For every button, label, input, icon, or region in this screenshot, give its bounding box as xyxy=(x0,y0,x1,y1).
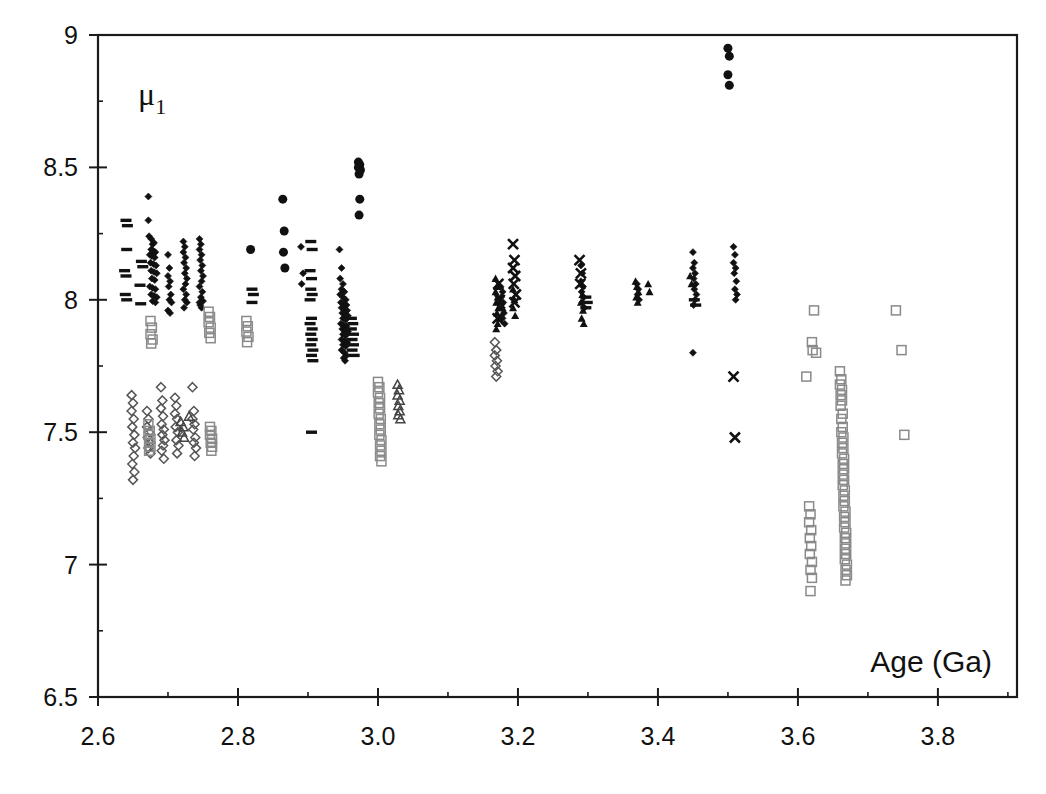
y-tick-label: 7.5 xyxy=(43,418,78,446)
data-point-filled-circle xyxy=(355,195,364,204)
data-point-filled-diamond xyxy=(689,249,696,256)
data-point-open-diamond xyxy=(170,393,179,402)
x-tick-label: 3.6 xyxy=(781,722,816,750)
data-point-cross-x xyxy=(730,432,740,442)
y-axis-label-subscript: 1 xyxy=(155,94,166,119)
data-point-open-diamond xyxy=(142,407,151,416)
data-point-filled-diamond xyxy=(338,265,345,272)
data-point-open-diamond xyxy=(159,454,168,463)
data-point-open-square xyxy=(897,346,906,355)
data-point-open-diamond xyxy=(173,449,182,458)
y-axis-label: μ1 xyxy=(138,76,166,119)
data-point-filled-diamond xyxy=(164,251,171,258)
x-tick-label: 3.4 xyxy=(641,722,676,750)
data-point-open-diamond xyxy=(188,383,197,392)
data-point-open-square xyxy=(900,430,909,439)
data-point-filled-circle xyxy=(725,81,734,90)
data-point-filled-circle xyxy=(355,211,364,220)
x-tick-label: 3.0 xyxy=(361,722,396,750)
data-point-open-square xyxy=(891,306,900,315)
y-tick-label: 8 xyxy=(64,286,78,314)
data-point-filled-triangle xyxy=(644,280,652,287)
data-point-filled-circle xyxy=(279,248,288,257)
data-point-filled-triangle xyxy=(511,312,519,319)
y-tick-label: 9 xyxy=(64,21,78,49)
data-point-filled-circle xyxy=(723,44,732,53)
data-point-open-diamond xyxy=(128,459,137,468)
data-point-filled-diamond xyxy=(166,265,173,272)
data-point-filled-circle xyxy=(246,245,255,254)
data-point-open-diamond xyxy=(130,430,139,439)
x-axis-label: Age (Ga) xyxy=(870,645,992,678)
data-point-filled-diamond xyxy=(145,193,152,200)
data-point-open-diamond xyxy=(490,338,499,347)
data-point-cross-x xyxy=(729,372,739,382)
data-point-filled-circle xyxy=(725,52,734,61)
data-point-open-diamond xyxy=(144,414,153,423)
x-tick-label: 2.6 xyxy=(81,722,116,750)
data-point-filled-diamond xyxy=(730,243,737,250)
data-point-open-diamond xyxy=(128,422,137,431)
x-tick-label: 2.8 xyxy=(221,722,256,750)
data-point-open-diamond xyxy=(128,399,137,408)
data-point-filled-diamond xyxy=(145,217,152,224)
data-point-filled-diamond xyxy=(297,243,304,250)
data-point-filled-circle xyxy=(280,264,289,273)
data-point-filled-diamond xyxy=(689,349,696,356)
data-point-open-diamond xyxy=(172,401,181,410)
data-point-filled-triangle xyxy=(632,277,640,284)
data-point-cross-x xyxy=(508,239,518,249)
data-point-filled-circle xyxy=(278,195,287,204)
data-point-open-square xyxy=(802,372,811,381)
data-point-open-diamond xyxy=(129,452,138,461)
data-point-open-square xyxy=(812,348,821,357)
data-point-filled-diamond xyxy=(733,278,740,285)
data-point-filled-circle xyxy=(355,170,364,179)
data-point-open-diamond xyxy=(158,396,167,405)
x-tick-label: 3.8 xyxy=(921,722,956,750)
data-point-open-diamond xyxy=(190,452,199,461)
data-point-filled-triangle xyxy=(646,288,654,295)
data-point-open-diamond xyxy=(127,407,136,416)
data-point-filled-triangle xyxy=(578,314,586,321)
data-point-open-square xyxy=(810,306,819,315)
data-point-open-diamond xyxy=(156,404,165,413)
data-point-open-diamond xyxy=(127,391,136,400)
data-point-filled-diamond xyxy=(731,251,738,258)
y-tick-label: 8.5 xyxy=(43,153,78,181)
plot-frame xyxy=(98,35,1017,697)
data-point-open-diamond xyxy=(130,467,139,476)
data-point-open-diamond xyxy=(128,475,137,484)
data-point-open-diamond xyxy=(159,412,168,421)
data-point-open-diamond xyxy=(129,414,138,423)
data-point-cross-x xyxy=(508,263,518,273)
data-point-filled-circle xyxy=(723,70,732,79)
plot-canvas: 6.577.588.592.62.83.03.23.43.63.8Age (Ga… xyxy=(0,0,1046,794)
data-point-filled-circle xyxy=(280,226,289,235)
scatter-plot-figure: 6.577.588.592.62.83.03.23.43.63.8Age (Ga… xyxy=(0,0,1046,794)
data-point-open-diamond xyxy=(156,383,165,392)
y-tick-label: 6.5 xyxy=(43,683,78,711)
y-tick-label: 7 xyxy=(64,551,78,579)
data-point-open-square xyxy=(806,587,815,596)
data-point-filled-diamond xyxy=(298,280,305,287)
data-point-filled-diamond xyxy=(336,246,343,253)
x-tick-label: 3.2 xyxy=(501,722,536,750)
